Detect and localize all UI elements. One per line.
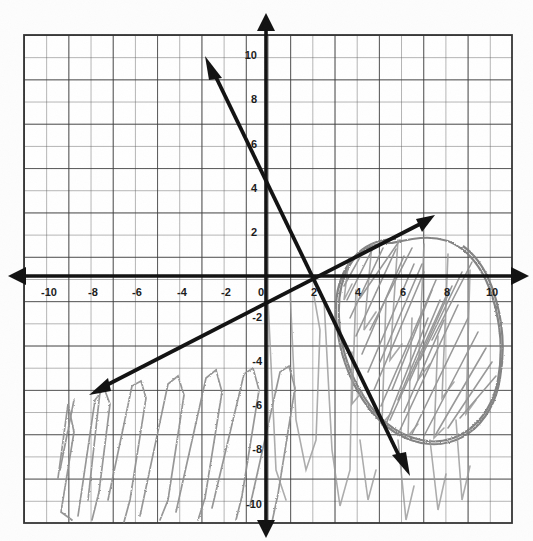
- y-tick-label: 8: [251, 93, 257, 105]
- y-tick-label: 2: [251, 226, 257, 238]
- y-tick-label: -6: [252, 399, 262, 411]
- x-tick-label: -8: [88, 286, 98, 298]
- x-tick-label: -4: [177, 286, 188, 298]
- y-tick-label: 4: [251, 182, 258, 194]
- y-tick-label: -2: [252, 311, 262, 323]
- x-tick-label-origin: 0: [258, 286, 264, 298]
- y-tick-label: -4: [252, 355, 263, 367]
- coordinate-plane-svg: -10 -8 -6 -4 -2 0 2 4 6 8 10 10 8 6 4 2 …: [0, 0, 533, 541]
- y-tick-label: -8: [252, 443, 262, 455]
- x-tick-label: -6: [132, 286, 142, 298]
- x-tick-label: -10: [41, 286, 57, 298]
- grid: [24, 35, 512, 523]
- x-tick-label: 4: [355, 286, 362, 298]
- y-tick-label: 10: [245, 49, 257, 61]
- y-tick-label: -10: [246, 498, 262, 510]
- x-tick-label: 2: [311, 286, 317, 298]
- x-tick-label: 6: [400, 286, 406, 298]
- x-tick-label: -2: [221, 286, 231, 298]
- x-tick-label: 8: [444, 286, 450, 298]
- y-tick-label: 6: [251, 138, 257, 150]
- x-tick-label: 10: [486, 286, 498, 298]
- graph-figure: -10 -8 -6 -4 -2 0 2 4 6 8 10 10 8 6 4 2 …: [0, 0, 533, 541]
